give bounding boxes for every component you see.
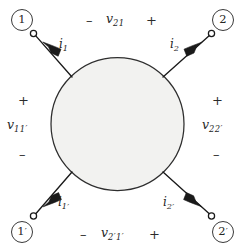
polarity-minus-top: – bbox=[86, 14, 93, 27]
current-subscript-i1: 1 bbox=[63, 43, 69, 53]
node-id-1-text: 1 bbox=[18, 14, 25, 26]
voltage-label-v21: v21 bbox=[106, 13, 125, 26]
current-label-i2: i2 bbox=[170, 38, 179, 50]
polarity-plus-left: + bbox=[18, 94, 29, 107]
current-label-i1prime: i1′ bbox=[58, 196, 70, 208]
node-id-1prime-prime: ′ bbox=[25, 228, 27, 237]
terminal-circle-port-1 bbox=[30, 30, 36, 36]
network-body-blob bbox=[51, 58, 184, 191]
terminal-circle-port-2 bbox=[208, 30, 214, 36]
polarity-minus-left: – bbox=[19, 148, 26, 161]
voltage-label-v11prime: v11′ bbox=[7, 119, 28, 132]
terminal-circle-port-2prime bbox=[208, 213, 214, 219]
voltage-subscript-v11prime: 11′ bbox=[14, 124, 28, 134]
node-id-2-text: 2 bbox=[219, 14, 226, 26]
voltage-label-v2prime1prime: v2′1′ bbox=[101, 227, 124, 240]
polarity-minus-right: – bbox=[213, 148, 220, 161]
node-id-2: 2 bbox=[212, 9, 234, 31]
voltage-subscript-v22prime: 22′ bbox=[209, 124, 223, 134]
polarity-plus-top: + bbox=[146, 14, 157, 27]
polarity-minus-bottom: – bbox=[80, 228, 87, 241]
voltage-symbol-v22prime: v bbox=[202, 117, 209, 132]
node-id-2prime-prime: ′ bbox=[226, 228, 228, 237]
node-id-2prime-text: 2 bbox=[218, 226, 225, 238]
current-label-i2prime: i2′ bbox=[163, 196, 175, 208]
voltage-subscript-v21: 21 bbox=[113, 18, 124, 28]
current-subscript-i2: 2 bbox=[174, 43, 180, 53]
current-arrowhead-port-2prime bbox=[184, 193, 202, 207]
node-id-1prime-text: 1 bbox=[17, 226, 24, 238]
current-label-i1: i1 bbox=[59, 38, 68, 50]
voltage-label-v22prime: v22′ bbox=[202, 119, 223, 132]
node-id-2prime: 2′ bbox=[212, 221, 234, 243]
polarity-plus-right: + bbox=[212, 94, 223, 107]
current-subscript-i1prime: 1′ bbox=[62, 201, 70, 211]
voltage-subscript-v2prime1prime: 2′1′ bbox=[108, 232, 124, 242]
two-port-network-figure: 1 2 1′ 2′ i1 i2 i1′ i2′ – v21 + + v11′ –… bbox=[0, 0, 245, 251]
polarity-plus-bottom: + bbox=[149, 228, 160, 241]
current-subscript-i2prime: 2′ bbox=[167, 201, 175, 211]
voltage-symbol-v11prime: v bbox=[7, 117, 14, 132]
current-arrowhead-port-2 bbox=[184, 42, 202, 56]
node-id-1prime: 1′ bbox=[11, 221, 33, 243]
terminal-circle-port-1prime bbox=[30, 213, 36, 219]
node-id-1: 1 bbox=[11, 9, 33, 31]
voltage-symbol-v2prime1prime: v bbox=[101, 225, 108, 240]
voltage-symbol-v21: v bbox=[106, 11, 113, 26]
